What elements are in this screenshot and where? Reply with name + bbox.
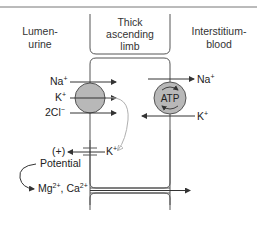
thick-ascending-limb-diagram: Lumen- urine Thick ascending limb Inters… xyxy=(0,0,257,226)
cell-label-1: Thick xyxy=(117,16,143,28)
cell-body-upper xyxy=(90,58,170,205)
mg-ca-label: Mg2+, Ca2+ xyxy=(38,182,88,194)
cl-label: 2Cl− xyxy=(45,106,65,118)
next-cell xyxy=(90,193,170,210)
channel-k-label: K+ xyxy=(106,145,117,157)
cell-bottom-left xyxy=(90,130,170,188)
cell-label-2: ascending xyxy=(106,28,154,40)
cell-label-3: limb xyxy=(120,40,139,52)
k-label: K+ xyxy=(55,91,66,103)
potential-label: Potential xyxy=(40,157,81,169)
cell-body-lower xyxy=(90,204,94,213)
potential-curved-arrow xyxy=(20,164,36,189)
lumen-label-1: Lumen- xyxy=(22,25,58,37)
interstitium-label-1: Interstitium- xyxy=(192,25,247,37)
positive-charge-label: (+) xyxy=(52,145,65,157)
na-label: Na+ xyxy=(50,75,68,87)
pump-na-label: Na+ xyxy=(197,73,215,85)
k-recycle-arrow xyxy=(106,98,128,150)
atp-label: ATP xyxy=(161,93,180,104)
interstitium-label-2: blood xyxy=(206,38,232,50)
lumen-label-2: urine xyxy=(28,38,52,50)
pump-k-label: K+ xyxy=(197,110,208,122)
